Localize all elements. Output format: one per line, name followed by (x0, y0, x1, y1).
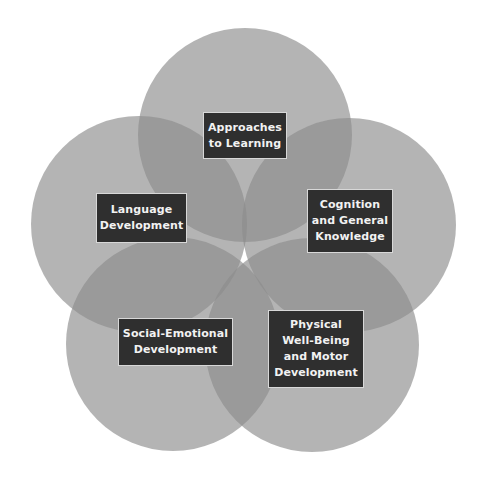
label-language-development: Language Development (96, 193, 187, 243)
label-social-emotional-development: Social-Emotional Development (118, 318, 233, 366)
label-text: Physical Well-Being and Motor Developmen… (274, 317, 358, 381)
label-text: Language Development (100, 202, 184, 234)
label-approaches-to-learning: Approaches to Learning (203, 112, 287, 159)
label-text: Social-Emotional Development (123, 326, 228, 358)
five-domain-venn-diagram: Approaches to Learning Cognition and Gen… (0, 0, 482, 479)
label-cognition-general-knowledge: Cognition and General Knowledge (307, 189, 393, 253)
label-text: Cognition and General Knowledge (312, 197, 388, 245)
label-physical-well-being-motor-development: Physical Well-Being and Motor Developmen… (268, 310, 364, 388)
label-text: Approaches to Learning (208, 120, 282, 152)
overlapping-circles (0, 0, 482, 479)
